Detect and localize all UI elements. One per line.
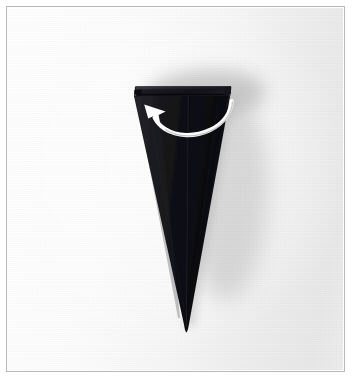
photo-frame [6, 6, 345, 372]
origami-model-artwork [8, 8, 343, 370]
photo-plate [8, 8, 343, 370]
top-fold-band [134, 86, 231, 96]
figure-root [0, 0, 353, 379]
